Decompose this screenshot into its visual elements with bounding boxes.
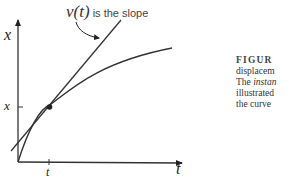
figure: v(t) is the slope x t x t FIGUR displace… [0,0,289,179]
annotation-arrow [76,22,99,38]
caption-line: the curve [236,99,289,110]
tangent-line [11,20,121,151]
caption-line: illustrated [236,88,289,99]
figure-caption: FIGUR displacem The instan illustrated t… [236,55,289,110]
annotation-text: is the slope [90,7,149,19]
x-axis-label: t [176,160,180,178]
caption-line: displacem [236,66,289,77]
x-axis [18,162,182,163]
caption-heading: FIGUR [236,55,289,66]
caption-text: The [236,77,253,87]
caption-line: The instan [236,77,289,88]
x-tick-label: x [4,98,10,114]
t-tick-label: t [46,165,49,179]
displacement-curve [18,48,172,162]
y-axis-label: x [4,26,11,44]
point-marker [47,104,53,110]
velocity-symbol: v(t) [66,2,90,21]
caption-italic: instan [253,77,276,87]
slope-annotation: v(t) is the slope [66,2,148,22]
